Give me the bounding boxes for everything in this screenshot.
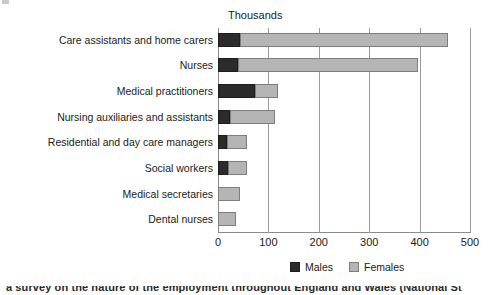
category-label: Medical practitioners [117, 85, 213, 97]
bar-segment-males [218, 110, 230, 124]
category-label: Dental nurses [148, 213, 213, 225]
legend-label-females: Females [364, 261, 404, 273]
bar-segment-males [218, 84, 255, 98]
bar-segment-females [218, 212, 236, 226]
category-label: Care assistants and home carers [59, 34, 213, 46]
footer-caption: a survey on the nature of the employment… [6, 286, 462, 294]
bar-segment-males [218, 33, 240, 47]
legend-item-males: Males [290, 261, 333, 273]
category-label: Residential and day care managers [48, 136, 213, 148]
unit-caption: Thousands [228, 9, 282, 22]
females-swatch-icon [349, 262, 359, 272]
category-label: Social workers [145, 162, 213, 174]
males-swatch-icon [290, 262, 300, 272]
x-tick-label-500: 500 [461, 236, 479, 249]
bar-segment-females [238, 58, 418, 72]
bar-segment-males [218, 58, 238, 72]
category-label: Nurses [180, 59, 213, 71]
bar-segment-males [218, 161, 228, 175]
x-tick-label-300: 300 [360, 236, 378, 249]
legend-item-females: Females [349, 261, 404, 273]
bar-segment-females [255, 84, 278, 98]
legend-label-males: Males [305, 261, 333, 273]
x-tick-label-400: 400 [410, 236, 428, 249]
x-tick-label-200: 200 [310, 236, 328, 249]
category-label: Medical secretaries [123, 188, 213, 200]
category-label: Nursing auxiliaries and assistants [57, 111, 213, 123]
bar-segment-females [240, 33, 448, 47]
x-tick-label-0: 0 [215, 236, 221, 249]
bar-segment-females [230, 110, 275, 124]
gridline-500 [470, 28, 471, 233]
x-axis-line [218, 232, 470, 233]
bar-segment-females [218, 187, 240, 201]
plot-area [218, 28, 470, 233]
stacked-bar-chart: Thousands Care assistants and home carer… [0, 0, 497, 295]
bar-segment-females [227, 135, 247, 149]
scan-artifact [2, 0, 9, 4]
bar-segment-females [228, 161, 247, 175]
x-axis-tick-labels: 0100200300400500 [218, 236, 470, 252]
x-tick-label-100: 100 [259, 236, 277, 249]
bar-segment-males [218, 135, 227, 149]
footer-clip: a survey on the nature of the employment… [0, 286, 497, 295]
category-axis-labels: Care assistants and home carersNursesMed… [0, 28, 213, 233]
gridline-400 [420, 28, 421, 233]
chart-legend: Males Females [290, 259, 404, 275]
